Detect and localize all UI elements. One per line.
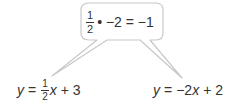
fraction-one-half: 1 2 [86, 10, 94, 35]
slope-fraction: 1 2 [41, 79, 49, 102]
equation-variable: x [192, 82, 199, 98]
slope-coefficient: −2 [176, 82, 192, 98]
equation-intercept: + 2 [203, 82, 223, 98]
equation-right: y = −2 x + 2 [153, 77, 223, 102]
fraction-numerator: 1 [86, 10, 94, 23]
equation-lhs: y [153, 82, 160, 98]
slope-denominator: 2 [42, 91, 48, 102]
equation-intercept: + 3 [61, 82, 81, 98]
equals-sign: = [164, 82, 172, 98]
equation-lhs: y [17, 82, 24, 98]
equation-variable: x [50, 82, 57, 98]
callout-equation: 1 2 • −2 = −1 [86, 7, 154, 37]
slope-numerator: 1 [41, 79, 49, 91]
equals-sign: = [28, 82, 36, 98]
fraction-denominator: 2 [87, 23, 93, 35]
equation-left: y = 1 2 x + 3 [17, 77, 81, 102]
callout-expression: • −2 = −1 [97, 14, 154, 30]
